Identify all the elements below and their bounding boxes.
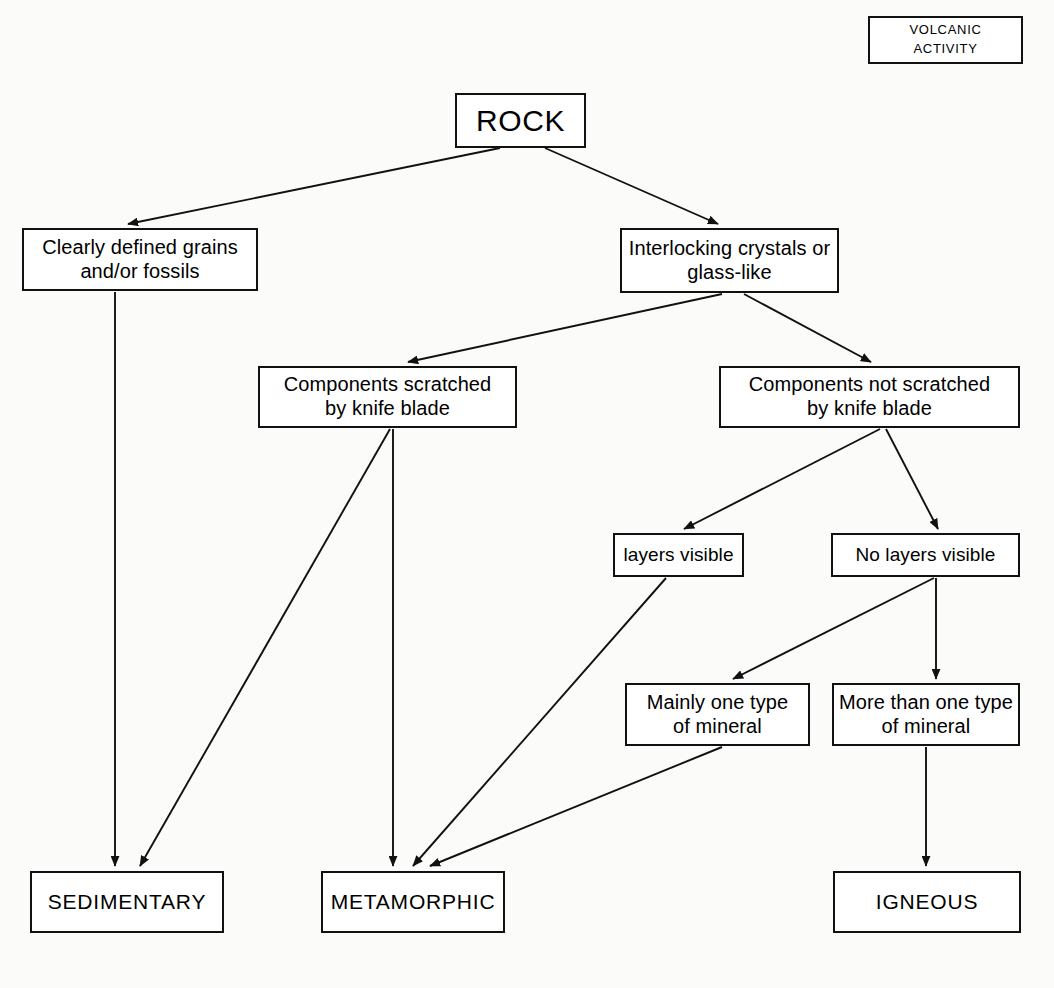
flowchart-canvas: VOLCANIC ACTIVITY ROCK Clearly defined g… bbox=[0, 0, 1054, 988]
interlocking-to-not-scratched bbox=[744, 294, 871, 362]
node-sedimentary[interactable]: SEDIMENTARY bbox=[30, 871, 224, 933]
rock-to-clearly-defined bbox=[128, 148, 500, 224]
rock-to-interlocking bbox=[545, 148, 718, 224]
node-no-layers-visible[interactable]: No layers visible bbox=[831, 533, 1020, 577]
node-layers-visible[interactable]: layers visible bbox=[613, 533, 744, 577]
scratched-to-sedimentary bbox=[140, 429, 390, 866]
node-components-scratched[interactable]: Components scratched by knife blade bbox=[258, 366, 517, 428]
no-layers-to-mainly-one bbox=[733, 578, 934, 679]
not-scratched-to-no-layers bbox=[886, 429, 938, 529]
node-metamorphic[interactable]: METAMORPHIC bbox=[321, 871, 505, 933]
node-components-not-scratched[interactable]: Components not scratched by knife blade bbox=[719, 366, 1020, 428]
mainly-one-to-metamorphic bbox=[430, 747, 722, 866]
node-rock[interactable]: ROCK bbox=[455, 93, 586, 148]
node-more-than-one-mineral[interactable]: More than one type of mineral bbox=[832, 683, 1020, 746]
node-volcanic-activity[interactable]: VOLCANIC ACTIVITY bbox=[868, 16, 1023, 64]
node-clearly-defined-grains[interactable]: Clearly defined grains and/or fossils bbox=[22, 228, 258, 291]
node-interlocking-crystals[interactable]: Interlocking crystals or glass-like bbox=[620, 228, 839, 293]
not-scratched-to-layers-visible bbox=[684, 429, 880, 529]
node-mainly-one-mineral[interactable]: Mainly one type of mineral bbox=[625, 683, 810, 746]
node-igneous[interactable]: IGNEOUS bbox=[833, 871, 1021, 933]
interlocking-to-scratched bbox=[408, 294, 722, 362]
edge-layer bbox=[0, 0, 1054, 988]
